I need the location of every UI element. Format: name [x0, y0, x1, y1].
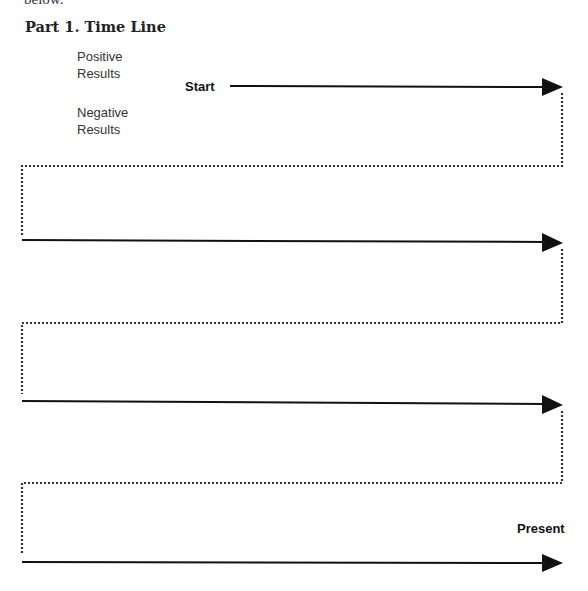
arrowhead-1-icon	[542, 78, 563, 96]
timeline-arrow-4	[22, 562, 545, 563]
arrowhead-4-icon	[542, 554, 563, 572]
arrowhead-2-icon	[542, 233, 563, 252]
timeline-arrow-1	[230, 86, 545, 87]
dotted-connector-2	[22, 249, 562, 394]
timeline-arrow-3	[22, 401, 545, 404]
timeline-arrow-2	[22, 240, 545, 242]
dotted-connector-3	[22, 411, 562, 555]
dotted-connector-1	[22, 93, 562, 235]
timeline-diagram	[0, 0, 588, 591]
arrowhead-3-icon	[542, 395, 563, 414]
